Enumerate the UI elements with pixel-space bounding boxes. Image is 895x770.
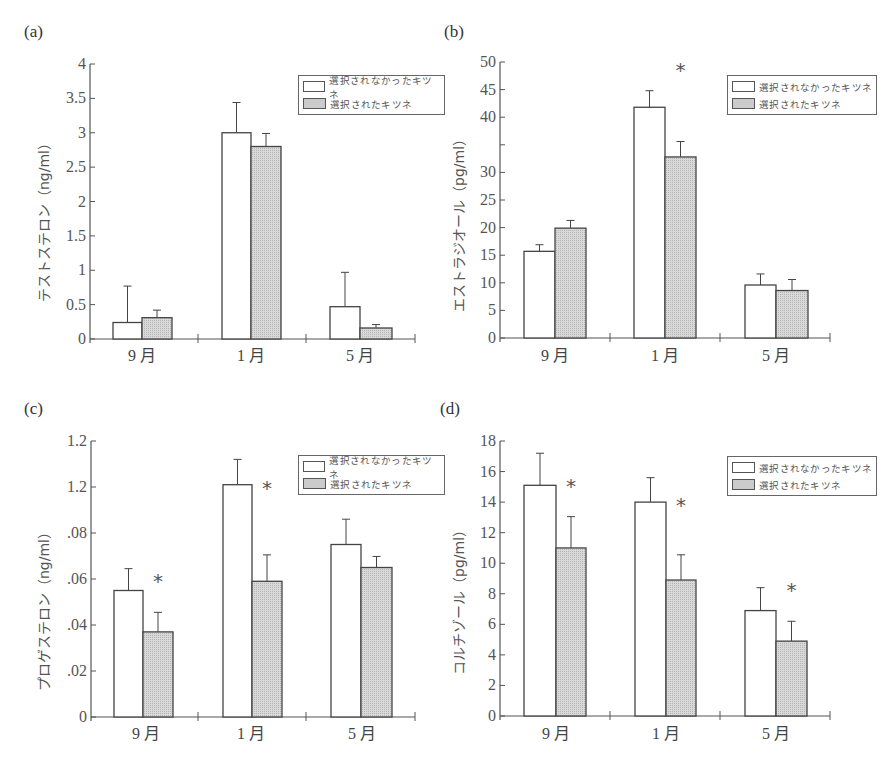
legend-swatch-white <box>303 81 325 92</box>
y-tick-label: 10 <box>480 554 496 571</box>
legend-item-unselected: 選択されなかったキツネ <box>732 78 872 95</box>
legend: 選択されなかったキツネ 選択されたキツネ <box>727 75 877 115</box>
legend-swatch-grey <box>732 479 755 490</box>
legend-label: 選択されなかったキツネ <box>759 80 872 94</box>
y-tick-label: 12 <box>480 524 496 541</box>
x-tick-label: 5 月 <box>348 725 376 742</box>
y-tick-label: 0 <box>78 330 86 347</box>
y-tick-label: 1.2 <box>67 432 87 449</box>
bar-selected <box>252 581 282 717</box>
legend-swatch-white <box>303 461 325 472</box>
bar-chart-cortisol: 0246810121416189 月1 月5 月*** <box>440 385 895 770</box>
bar-unselected <box>745 285 776 338</box>
bar-selected <box>666 580 696 716</box>
bar-unselected <box>745 611 776 716</box>
y-tick-label: 0 <box>79 708 87 725</box>
bar-selected <box>361 568 392 718</box>
x-tick-label: 5 月 <box>346 347 374 364</box>
y-tick-label: 4 <box>78 55 86 72</box>
bar-selected <box>143 632 173 717</box>
legend-swatch-grey <box>303 478 326 489</box>
x-tick-label: 5 月 <box>762 725 790 742</box>
bar-unselected <box>524 251 555 338</box>
chart-panel-c: (c) プロゲステロン（ng/ml） 0.02.04.06.081.21.29 … <box>0 385 445 770</box>
legend-label: 選択されたキツネ <box>759 97 841 111</box>
bar-unselected <box>113 323 142 340</box>
bar-selected <box>665 157 696 338</box>
legend: 選択されなかったキツネ 選択されたキツネ <box>298 75 445 115</box>
significance-marker: * <box>153 569 163 593</box>
significance-marker: * <box>676 493 686 517</box>
chart-panel-b: (b) エストラジオール（pg/ml） 0510152025304045509 … <box>440 0 895 380</box>
bar-unselected <box>635 502 666 716</box>
bar-selected <box>776 291 808 338</box>
y-tick-label: 4 <box>488 646 496 663</box>
y-tick-label: 45 <box>480 81 496 98</box>
legend-swatch-white <box>732 81 755 92</box>
y-tick-label: 20 <box>480 219 496 236</box>
x-tick-label: 9 月 <box>542 725 570 742</box>
bar-unselected <box>223 485 252 717</box>
y-tick-label: 0.5 <box>66 296 86 313</box>
legend-swatch-grey <box>303 98 326 109</box>
legend: 選択されなかったキツネ 選択されたキツネ <box>727 456 877 496</box>
legend-label: 選択されたキツネ <box>330 97 412 111</box>
legend-item-unselected: 選択されなかったキツネ <box>303 78 440 95</box>
x-tick-label: 9 月 <box>128 347 156 364</box>
bar-chart-progesterone: 0.02.04.06.081.21.29 月1 月5 月** <box>0 385 445 770</box>
legend-item-unselected: 選択されなかったキツネ <box>732 459 872 476</box>
legend-swatch-white <box>732 462 755 473</box>
x-tick-label: 1 月 <box>651 347 679 364</box>
y-tick-label: 0 <box>488 329 496 346</box>
bar-chart-testosterone: 00.511.522.533.549 月1 月5 月 <box>0 0 445 380</box>
y-tick-label: 2.5 <box>66 158 86 175</box>
y-tick-label: 16 <box>480 463 496 480</box>
legend: 選択されなかったキツネ 選択されたキツネ <box>298 455 445 495</box>
y-tick-label: 18 <box>480 432 496 449</box>
chart-panel-d: (d) コルチゾール（pg/ml） 0246810121416189 月1 月5… <box>440 385 895 770</box>
bar-unselected <box>222 133 251 339</box>
legend-label: 選択されたキツネ <box>759 478 841 492</box>
y-tick-label: 8 <box>488 585 496 602</box>
chart-panel-a: (a) テストステロン（ng/ml） 00.511.522.533.549 月1… <box>0 0 445 380</box>
y-tick-label: 40 <box>480 108 496 125</box>
y-tick-label: .06 <box>67 570 87 587</box>
y-tick-label: 30 <box>480 163 496 180</box>
legend-item-selected: 選択されたキツネ <box>732 95 872 112</box>
y-tick-label: 25 <box>480 191 496 208</box>
y-tick-label: 5 <box>488 301 496 318</box>
significance-marker: * <box>262 476 272 500</box>
y-tick-label: 3.5 <box>66 89 86 106</box>
bar-unselected <box>634 107 665 338</box>
legend-swatch-grey <box>732 98 755 109</box>
legend-item-selected: 選択されたキツネ <box>732 476 872 493</box>
y-tick-label: 1 <box>78 261 86 278</box>
legend-item-unselected: 選択されなかったキツネ <box>303 458 440 475</box>
significance-marker: * <box>787 578 797 602</box>
y-tick-label: 6 <box>488 615 496 632</box>
y-tick-label: 10 <box>480 274 496 291</box>
y-tick-label: 14 <box>480 493 496 510</box>
bar-unselected <box>524 485 556 716</box>
x-tick-label: 9 月 <box>541 347 569 364</box>
bar-selected <box>555 228 586 338</box>
y-tick-label: 0 <box>488 707 496 724</box>
y-tick-label: 50 <box>480 53 496 70</box>
bar-unselected <box>330 307 360 339</box>
legend-label: 選択されたキツネ <box>330 477 412 491</box>
significance-marker: * <box>566 474 576 498</box>
bar-selected <box>251 147 281 340</box>
bar-unselected <box>114 591 143 718</box>
bar-selected <box>776 641 807 716</box>
bar-selected <box>142 318 172 339</box>
y-tick-label: 1.2 <box>67 478 87 495</box>
y-tick-label: 1.5 <box>66 227 86 244</box>
y-tick-label: .08 <box>67 524 87 541</box>
y-tick-label: 3 <box>78 124 86 141</box>
bar-chart-estradiol: 0510152025304045509 月1 月5 月* <box>440 0 895 380</box>
y-tick-label: 2 <box>488 676 496 693</box>
bar-unselected <box>331 545 361 718</box>
y-tick-label: .04 <box>67 616 87 633</box>
x-tick-label: 9 月 <box>132 725 160 742</box>
x-tick-label: 1 月 <box>652 725 680 742</box>
